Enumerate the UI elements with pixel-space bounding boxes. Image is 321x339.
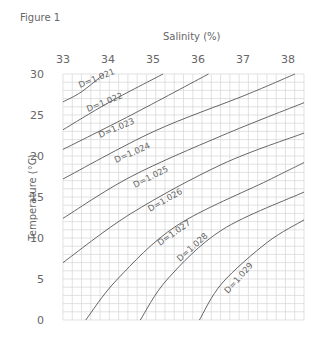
curve-label: D=1.021 — [77, 66, 116, 90]
curve-label: D=1.028 — [175, 231, 210, 264]
curve-label: D=1.023 — [97, 116, 136, 140]
grid-lines — [63, 74, 304, 320]
plot-area: D=1.021D=1.022D=1.023D=1.024D=1.025D=1.0… — [0, 0, 321, 339]
curve-label: D=1.027 — [155, 218, 192, 248]
